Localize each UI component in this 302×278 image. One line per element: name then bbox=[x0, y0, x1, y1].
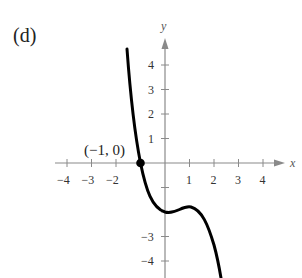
svg-text:1: 1 bbox=[186, 173, 192, 187]
svg-text:−2: −2 bbox=[106, 173, 119, 187]
svg-text:4: 4 bbox=[148, 58, 154, 72]
y-axis-label: y bbox=[160, 19, 167, 33]
x-axis-label: x bbox=[289, 156, 296, 170]
x-tick-labels: −4 −3 −2 1 2 3 4 bbox=[57, 173, 266, 187]
x-axis-arrow-icon bbox=[274, 160, 285, 167]
point-marker bbox=[136, 159, 145, 168]
svg-text:3: 3 bbox=[235, 173, 241, 187]
svg-text:−4: −4 bbox=[141, 254, 154, 268]
svg-text:2: 2 bbox=[148, 107, 154, 121]
cubic-graph: x y −4 −3 −2 1 2 3 4 4 3 bbox=[0, 0, 302, 278]
svg-text:3: 3 bbox=[148, 83, 154, 97]
svg-text:−3: −3 bbox=[82, 173, 95, 187]
svg-text:2: 2 bbox=[211, 173, 217, 187]
svg-text:4: 4 bbox=[260, 173, 266, 187]
svg-text:1: 1 bbox=[148, 132, 154, 146]
svg-text:−3: −3 bbox=[141, 230, 154, 244]
svg-text:−4: −4 bbox=[57, 173, 70, 187]
y-axis-arrow-icon bbox=[162, 38, 169, 49]
y-axis: y bbox=[160, 19, 169, 278]
point-label: (−1, 0) bbox=[84, 142, 125, 159]
